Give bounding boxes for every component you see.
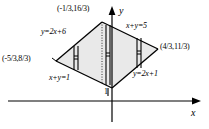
line-label-x-plus-y-5: x+y=5 (126, 22, 147, 30)
x-axis-label: x (191, 108, 195, 118)
line-label-x-plus-y-1: x+y=1 (49, 74, 70, 82)
y-axis-unit-tick-label: 1 (104, 88, 108, 96)
x-axis (8, 98, 201, 105)
figure-canvas: (-1/3,16/3) (-5/3,8/3) (4/3,11/3) y=2x+6… (0, 0, 209, 129)
diagram-svg (0, 0, 209, 129)
y-axis-label: y (119, 6, 123, 16)
leader-left-vertex (52, 58, 56, 61)
shaded-region (56, 22, 158, 88)
line-label-y-2x-plus-6: y=2x+6 (41, 28, 66, 36)
vertex-label-right: (4/3,11/3) (160, 43, 189, 51)
vertex-label-top: (-1/3,16/3) (57, 5, 89, 13)
line-label-y-2x-plus-1: y=2x+1 (133, 70, 158, 78)
vertex-label-left: (-5/3,8/3) (2, 55, 30, 63)
